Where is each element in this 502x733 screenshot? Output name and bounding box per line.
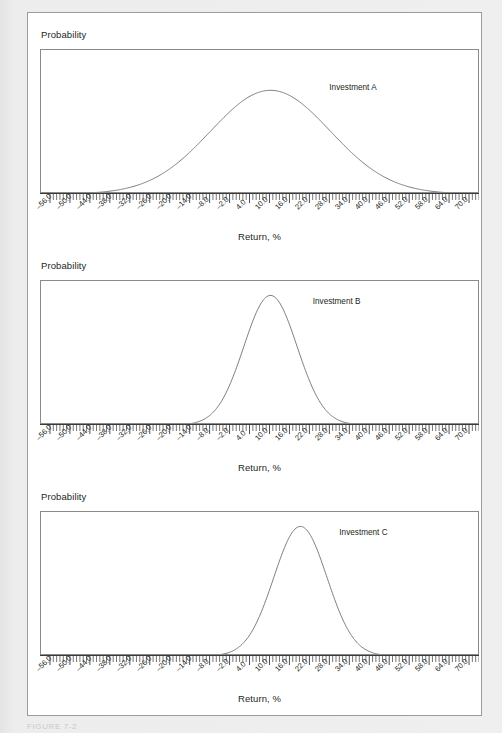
series-label: Investment A bbox=[329, 83, 376, 92]
y-axis-label: Probability bbox=[41, 260, 86, 271]
y-axis-label: Probability bbox=[41, 29, 86, 40]
plot-area bbox=[40, 49, 479, 193]
series-label: Investment C bbox=[339, 528, 387, 537]
x-axis-label: Return, % bbox=[40, 462, 479, 473]
chart-panel-investment-c: Probability –56.0–50.0–44.0–38.0–32.0–26… bbox=[28, 481, 483, 717]
x-axis-label: Return, % bbox=[40, 693, 479, 704]
distribution-curve bbox=[41, 90, 479, 193]
plot-area bbox=[40, 511, 479, 655]
y-axis-label: Probability bbox=[41, 491, 86, 502]
figure-caption: FIGURE 7-2 bbox=[27, 722, 77, 731]
chart-panel-investment-a: Probability –56.0–50.0–44.0–38.0–32.0–26… bbox=[28, 19, 483, 250]
distribution-curve bbox=[41, 295, 479, 424]
series-label: Investment B bbox=[313, 297, 361, 306]
x-axis-tick-labels: –56.0–50.0–44.0–38.0–32.0–26.0–20.0–14.0… bbox=[40, 436, 479, 464]
figure-card: Probability –56.0–50.0–44.0–38.0–32.0–26… bbox=[27, 12, 482, 716]
x-axis-tick-labels: –56.0–50.0–44.0–38.0–32.0–26.0–20.0–14.0… bbox=[40, 667, 479, 695]
distribution-curve bbox=[41, 526, 479, 655]
x-axis-label: Return, % bbox=[40, 231, 479, 242]
x-axis-tick-labels: –56.0–50.0–44.0–38.0–32.0–26.0–20.0–14.0… bbox=[40, 205, 479, 233]
plot-area bbox=[40, 280, 479, 424]
chart-panel-investment-b: Probability –56.0–50.0–44.0–38.0–32.0–26… bbox=[28, 250, 483, 481]
